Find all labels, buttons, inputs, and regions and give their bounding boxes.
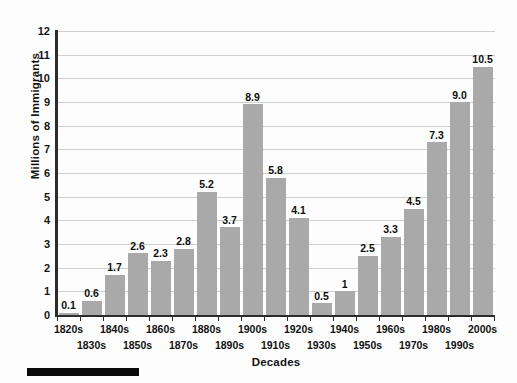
x-category-label: 1940s xyxy=(322,324,368,335)
y-tick-label: 1 xyxy=(28,286,50,297)
x-category-label: 1820s xyxy=(46,324,92,335)
bar xyxy=(358,256,378,315)
bar xyxy=(105,275,125,315)
bar-group: 3.3 xyxy=(379,31,402,315)
y-tick-label: 4 xyxy=(28,215,50,226)
plot-area: 0.10.61.72.62.32.85.23.78.95.84.10.512.5… xyxy=(57,31,495,315)
x-tick-mark xyxy=(218,316,219,321)
x-tick-mark xyxy=(80,316,81,321)
x-tick-mark xyxy=(494,316,495,321)
bar-group: 2.8 xyxy=(172,31,195,315)
x-tick-mark xyxy=(448,316,449,321)
scan-artifact-bar xyxy=(27,368,139,376)
x-category-label: 1890s xyxy=(207,340,253,351)
x-category-label: 1990s xyxy=(437,340,483,351)
bar-group: 0.5 xyxy=(310,31,333,315)
x-tick-mark xyxy=(264,316,265,321)
bar xyxy=(312,303,332,315)
x-tick-mark xyxy=(57,316,58,321)
y-tick-label: 9 xyxy=(28,97,50,108)
x-category-label: 1850s xyxy=(115,340,161,351)
x-tick-mark xyxy=(471,316,472,321)
x-category-label: 1920s xyxy=(276,324,322,335)
bar xyxy=(427,142,447,315)
chart-screenshot: Millions of Immigrants 1211109876543210 … xyxy=(0,0,517,383)
bar xyxy=(174,249,194,315)
bar xyxy=(381,237,401,315)
x-axis-line xyxy=(57,315,495,317)
x-category-label: 1910s xyxy=(253,340,299,351)
y-tick-label: 3 xyxy=(28,239,50,250)
bar xyxy=(473,67,493,316)
bar xyxy=(243,104,263,315)
bar xyxy=(335,291,355,315)
x-tick-mark xyxy=(333,316,334,321)
bar-group: 5.8 xyxy=(264,31,287,315)
x-category-label: 1900s xyxy=(230,324,276,335)
y-tick-label: 5 xyxy=(28,192,50,203)
bar-group: 10.5 xyxy=(471,31,494,315)
bar-group: 4.1 xyxy=(287,31,310,315)
bar-group: 4.5 xyxy=(402,31,425,315)
x-tick-mark xyxy=(356,316,357,321)
bar xyxy=(151,261,171,315)
x-tick-mark xyxy=(103,316,104,321)
x-category-label: 1950s xyxy=(345,340,391,351)
y-tick-label: 0 xyxy=(28,310,50,321)
x-axis-title: Decades xyxy=(57,356,495,368)
bar-group: 1.7 xyxy=(103,31,126,315)
bar-group: 2.6 xyxy=(126,31,149,315)
y-tick-label: 12 xyxy=(28,26,50,37)
bar-group: 1 xyxy=(333,31,356,315)
bar xyxy=(220,227,240,315)
x-category-label: 1970s xyxy=(391,340,437,351)
bar-group: 7.3 xyxy=(425,31,448,315)
y-tick-label: 8 xyxy=(28,121,50,132)
x-tick-mark xyxy=(172,316,173,321)
bar xyxy=(82,301,102,315)
x-category-label: 1860s xyxy=(138,324,184,335)
y-tick-label: 6 xyxy=(28,168,50,179)
x-category-label: 2000s xyxy=(460,324,506,335)
y-axis-line xyxy=(55,30,58,317)
bar xyxy=(197,192,217,315)
x-tick-mark xyxy=(126,316,127,321)
y-tick-label: 11 xyxy=(28,50,50,61)
x-category-label: 1880s xyxy=(184,324,230,335)
bar-group: 0.1 xyxy=(57,31,80,315)
x-tick-mark xyxy=(425,316,426,321)
bar xyxy=(266,178,286,315)
bar xyxy=(404,209,424,316)
bar-group: 5.2 xyxy=(195,31,218,315)
x-category-label: 1830s xyxy=(69,340,115,351)
x-tick-mark xyxy=(195,316,196,321)
bar xyxy=(128,253,148,315)
x-category-label: 1840s xyxy=(92,324,138,335)
bar-group: 2.3 xyxy=(149,31,172,315)
bar-value-label: 10.5 xyxy=(464,54,501,65)
x-category-label: 1960s xyxy=(368,324,414,335)
y-tick-label: 7 xyxy=(28,144,50,155)
x-tick-mark xyxy=(241,316,242,321)
x-tick-mark xyxy=(287,316,288,321)
x-tick-mark xyxy=(402,316,403,321)
y-tick-label: 10 xyxy=(28,73,50,84)
x-tick-mark xyxy=(149,316,150,321)
bar-group: 3.7 xyxy=(218,31,241,315)
bar-group: 2.5 xyxy=(356,31,379,315)
x-tick-mark xyxy=(310,316,311,321)
x-category-label: 1980s xyxy=(414,324,460,335)
x-category-label: 1870s xyxy=(161,340,207,351)
x-tick-mark xyxy=(379,316,380,321)
y-tick-label: 2 xyxy=(28,263,50,274)
x-category-label: 1930s xyxy=(299,340,345,351)
bar-group: 9.0 xyxy=(448,31,471,315)
bar xyxy=(450,102,470,315)
